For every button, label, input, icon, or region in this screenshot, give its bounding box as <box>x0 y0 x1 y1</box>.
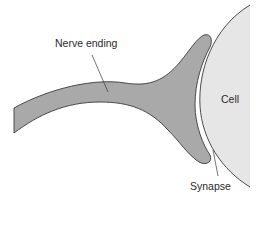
cell-label: Cell <box>221 93 239 105</box>
nerve-ending-label: Nerve ending <box>55 37 117 49</box>
synapse-label: Synapse <box>190 180 231 192</box>
nerve-ending-shape <box>14 35 211 164</box>
